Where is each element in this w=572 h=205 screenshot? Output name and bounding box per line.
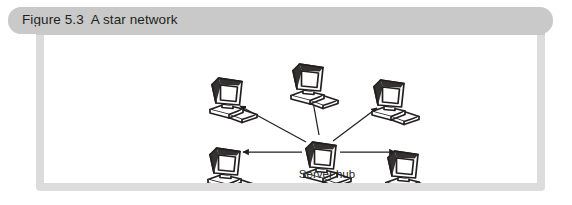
workstation-lower-left <box>208 148 255 183</box>
workstation-lower-right <box>386 151 433 183</box>
figure-container: Figure 5.3 A star network <box>0 0 572 205</box>
workstation-top-center <box>291 64 338 109</box>
star-network-diagram: Server hub <box>44 34 537 183</box>
workstation-upper-right <box>372 80 419 125</box>
server-hub-label: Server hub <box>299 168 355 180</box>
diagram-svg: Server hub <box>44 34 537 183</box>
connection-hub-to-upper-right <box>333 108 377 141</box>
workstation-upper-left <box>210 78 257 123</box>
